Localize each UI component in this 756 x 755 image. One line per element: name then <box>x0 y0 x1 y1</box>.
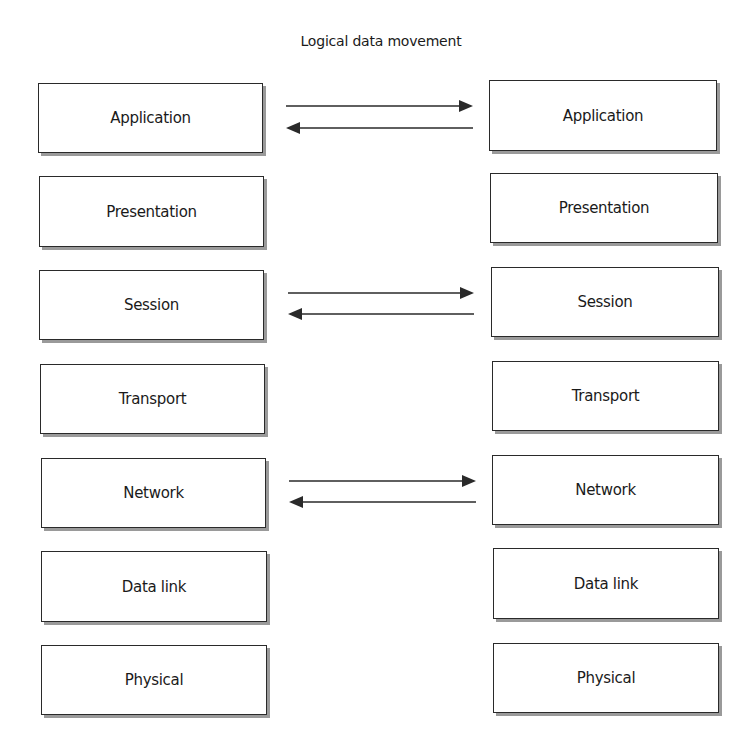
forward-arrow-icon <box>288 287 474 299</box>
forward-arrow-icon <box>289 475 476 487</box>
arrow-pair-session <box>288 287 474 320</box>
arrow-pair-network <box>289 475 476 508</box>
backward-arrow-icon <box>288 308 474 320</box>
backward-arrow-icon <box>289 496 476 508</box>
arrow-pair-application <box>286 100 473 134</box>
backward-arrow-icon <box>286 122 473 134</box>
arrows-layer <box>0 0 756 755</box>
forward-arrow-icon <box>286 100 473 112</box>
